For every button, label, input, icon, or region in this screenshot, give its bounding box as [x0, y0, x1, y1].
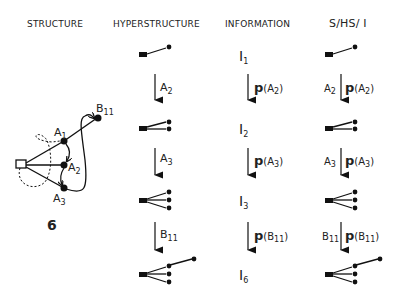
svg-text:A3: A3 [53, 192, 66, 207]
svg-text:p(B11): p(B11) [345, 228, 379, 244]
shs-i-column: A2 p(A2) A3 p(A3) B11 p(B11) [322, 45, 382, 285]
svg-text:p(A3): p(A3) [345, 153, 374, 169]
svg-text:A3: A3 [160, 152, 173, 167]
svg-text:p(B11): p(B11) [254, 228, 288, 244]
svg-text:B11: B11 [96, 102, 114, 117]
hyperstructure-column: A2 A3 B11 [139, 45, 196, 285]
node-b11 [95, 115, 102, 122]
information-column: I1 p(A2) I2 p(A3) I3 p(B11) I6 [239, 48, 288, 285]
node-a2 [61, 162, 68, 169]
svg-text:I1: I1 [239, 48, 248, 66]
svg-text:p(A3): p(A3) [254, 153, 283, 169]
svg-text:p(A2): p(A2) [345, 80, 374, 96]
node-a3 [61, 185, 68, 192]
svg-text:B11: B11 [160, 228, 178, 243]
svg-text:I3: I3 [239, 193, 248, 211]
svg-text:p(A2): p(A2) [254, 80, 283, 96]
svg-text:B11: B11 [322, 231, 339, 244]
svg-text:6: 6 [47, 217, 57, 233]
svg-text:I2: I2 [239, 121, 248, 139]
structure-graph: A1 A2 A3 B11 6 [16, 102, 114, 233]
svg-text:I6: I6 [239, 267, 248, 285]
diagram-canvas: A1 A2 A3 B11 6 A2 A3 B11 [0, 0, 401, 303]
svg-text:A2: A2 [68, 161, 81, 176]
svg-text:A2: A2 [324, 83, 336, 96]
svg-text:A2: A2 [160, 81, 173, 96]
svg-text:A1: A1 [54, 126, 67, 141]
svg-text:A3: A3 [324, 156, 336, 169]
root-square-node [16, 160, 26, 168]
